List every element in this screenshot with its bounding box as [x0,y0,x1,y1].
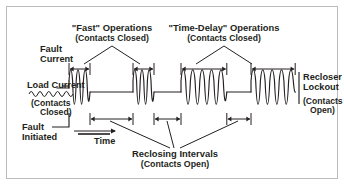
fast-operations-title: "Fast" Operations [72,22,152,33]
current-waveform [57,70,295,105]
recloser-lockout-label-line1: Recloser [303,72,342,82]
reclosing-leader-1 [110,121,170,148]
fault-initiated-label-line2: Initiated [22,132,57,142]
diagram-canvas: "Fast" Operations (Contacts Closed) "Tim… [0,0,344,185]
delay-title-leader [196,46,252,64]
time-axis-arrow [74,128,116,134]
time-delay-operations-title: "Time-Delay" Operations [169,22,280,33]
reclosing-leader-2 [167,121,174,148]
fast-operations-subtitle: (Contacts Closed) [75,33,149,43]
time-delay-burst-2 [251,70,295,105]
fast-burst-2 [133,70,154,105]
fault-current-label-line2: Current [40,54,73,64]
load-current-sine-glyph [29,92,73,97]
title-leader-lines [84,46,252,64]
fast-title-leader [84,46,140,64]
fault-initiated-label-line1: Fault [22,122,44,132]
recloser-sequence-diagram: "Fast" Operations (Contacts Closed) "Tim… [0,0,344,185]
time-delay-burst-1 [181,70,227,105]
load-contacts-closed-line2: Closed) [40,107,72,117]
time-axis-label: Time [94,136,115,146]
fault-current-label-line1: Fault [40,44,62,54]
reclosing-leader-3 [180,121,238,148]
load-current-label: Load Current [27,80,85,90]
lockout-contacts-open-line2: Open) [310,105,335,115]
reclosing-leader-lines [110,121,238,148]
reclosing-intervals-label-line2: (Contacts Open) [141,159,209,169]
reclosing-intervals-label-line1: Reclosing Intervals [132,148,218,159]
time-delay-operations-subtitle: (Contacts Closed) [187,33,261,43]
recloser-lockout-label-line2: Lockout [303,82,339,92]
